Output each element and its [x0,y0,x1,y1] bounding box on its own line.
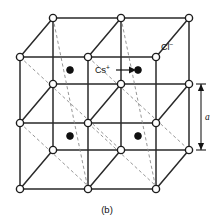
anion-node [16,119,23,126]
diagonal-cell-c0r1-b [53,18,88,189]
lattice-constant-label: a [205,112,210,122]
anion-node [152,53,159,60]
depth-edge-c1-r1 [88,84,121,123]
anion-node [117,80,124,87]
anion-node [49,14,56,21]
diagonal-cell-c1r1-b [121,18,156,189]
anion-node [152,185,159,192]
anion-node [84,185,91,192]
dimension-arrowhead-top [198,84,204,91]
cation-node [67,133,74,140]
depth-edge-c1-r0 [88,150,121,189]
anion-node [84,53,91,60]
depth-edge-c0-r0 [20,150,53,189]
anion-node [117,14,124,21]
depth-edge-c0-r2 [20,18,53,57]
anion-node [152,119,159,126]
anion-label: Cl− [161,41,174,52]
figure-caption: (b) [101,204,113,215]
cation-leader-arrowhead [129,67,136,74]
anion-node [185,80,192,87]
lattice-diagram-svg: Cs+ Cl− a (b) [0,0,214,223]
anion-node [84,119,91,126]
anion-node [49,80,56,87]
depth-edge-c2-r1 [156,84,189,123]
anion-node [49,146,56,153]
lattice-constant-dimension: a [196,84,210,150]
anion-node [185,14,192,21]
depth-edge-c0-r1 [20,84,53,123]
depth-edge-c1-r2 [88,18,121,57]
cation-node [67,67,74,74]
cation-label: Cs+ [95,64,110,75]
depth-edge-c2-r0 [156,150,189,189]
anion-node [16,185,23,192]
cation-label-group: Cs+ [95,64,136,75]
cscl-lattice-figure: Cs+ Cl− a (b) [0,0,214,223]
anion-node [185,146,192,153]
cation-node [135,133,142,140]
anion-node [16,53,23,60]
anion-label-group: Cl− [161,41,174,52]
anion-node [117,146,124,153]
dimension-arrowhead-bottom [198,143,204,150]
